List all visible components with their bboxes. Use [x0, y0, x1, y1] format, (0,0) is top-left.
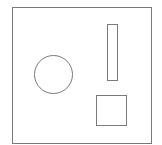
- tall-bar-shape: [108, 25, 118, 81]
- circle-shape: [35, 56, 73, 94]
- outer-frame: [13, 8, 152, 144]
- shapes-diagram: [0, 0, 162, 145]
- square-shape: [97, 96, 127, 126]
